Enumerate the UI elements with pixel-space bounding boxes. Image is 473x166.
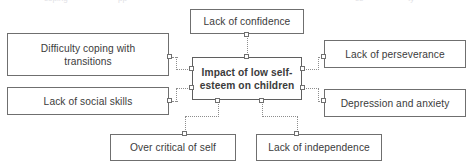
handle-center-right-lower[interactable] bbox=[300, 85, 305, 90]
connector-lack-of-social-skills-v bbox=[176, 88, 177, 102]
handle-lack-of-perseverance-box[interactable] bbox=[321, 54, 326, 59]
node-label: Lack of social skills bbox=[40, 95, 137, 108]
connector-lack-of-perseverance-v bbox=[318, 57, 319, 70]
node-label: Depression and anxiety bbox=[337, 97, 454, 110]
connector-lack-of-social-skills-stub bbox=[172, 101, 178, 102]
handle-lack-of-independence-box[interactable] bbox=[294, 131, 299, 136]
node-difficulty-coping[interactable]: Difficulty coping with transitions bbox=[7, 33, 169, 76]
node-label: Impact of low self- esteem on children bbox=[196, 66, 299, 92]
handle-center-left-upper[interactable] bbox=[189, 66, 194, 71]
handle-center-left-lower[interactable] bbox=[189, 85, 194, 90]
handle-over-critical-box[interactable] bbox=[182, 131, 187, 136]
node-label: Difficulty coping with transitions bbox=[37, 42, 139, 68]
node-label: Lack of independence bbox=[264, 141, 374, 154]
node-over-critical-of-self[interactable]: Over critical of self bbox=[110, 134, 236, 161]
handle-center-bottom-right[interactable] bbox=[259, 98, 264, 103]
node-lack-of-confidence[interactable]: Lack of confidence bbox=[190, 9, 304, 34]
handle-lack-of-social-skills-box[interactable] bbox=[167, 98, 172, 103]
handle-lack-of-confidence-box[interactable] bbox=[244, 32, 249, 37]
handle-center-right-upper[interactable] bbox=[300, 66, 305, 71]
handle-center-top[interactable] bbox=[244, 54, 249, 59]
connector-difficulty-coping-stub bbox=[172, 57, 178, 58]
node-lack-of-independence[interactable]: Lack of independence bbox=[256, 134, 382, 161]
connector-depression-anxiety-v bbox=[318, 88, 319, 102]
handle-difficulty-coping-box[interactable] bbox=[167, 54, 172, 59]
node-lack-of-social-skills[interactable]: Lack of social skills bbox=[7, 87, 169, 115]
handle-depression-anxiety-box[interactable] bbox=[321, 98, 326, 103]
node-label: Lack of perseverance bbox=[341, 48, 448, 61]
clipped-top-text: coping pp ce ty bbox=[0, 0, 473, 6]
connector-over-critical-h bbox=[185, 116, 219, 117]
node-center-impact-of-low-self-esteem[interactable]: Impact of low self- esteem on children bbox=[192, 57, 302, 100]
node-lack-of-perseverance[interactable]: Lack of perseverance bbox=[324, 40, 466, 68]
node-label: Over critical of self bbox=[126, 141, 220, 154]
node-label: Lack of confidence bbox=[200, 15, 295, 28]
handle-center-bottom-left[interactable] bbox=[215, 98, 220, 103]
diagram-canvas: coping pp ce ty Lack of confidence Diffi… bbox=[0, 0, 473, 166]
node-depression-and-anxiety[interactable]: Depression and anxiety bbox=[324, 89, 466, 117]
connector-lack-of-independence-h bbox=[262, 116, 298, 117]
connector-difficulty-coping-v bbox=[176, 57, 177, 70]
